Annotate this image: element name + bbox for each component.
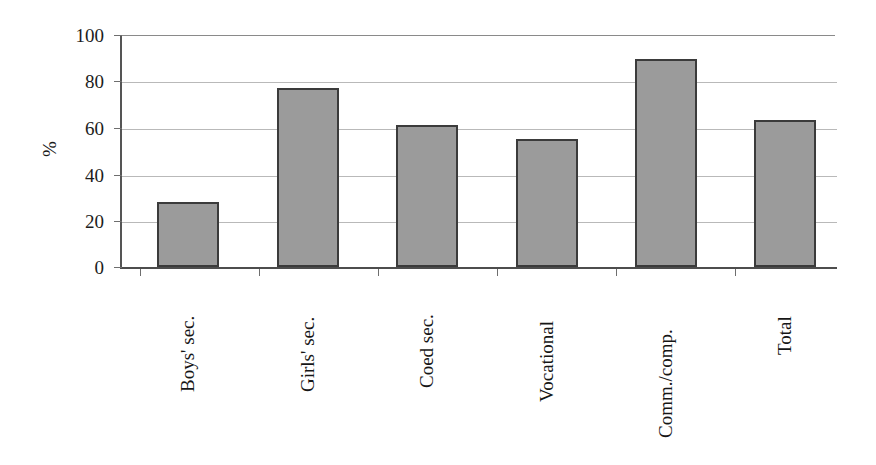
gridline-40 xyxy=(122,176,837,177)
x-label-vocational: Vocational xyxy=(537,321,557,402)
bar-vocational xyxy=(516,139,578,267)
y-tick-mark-40 xyxy=(114,175,122,176)
y-tick-label-20: 20 xyxy=(56,212,104,231)
gridline-80 xyxy=(122,82,837,83)
bar-coed-sec xyxy=(396,125,458,267)
y-tick-label-80: 80 xyxy=(56,72,104,91)
x-label-girls-sec: Girls' sec. xyxy=(298,317,318,392)
bar-chart: % 100 80 60 40 20 0 Boys' sec. Girls' se… xyxy=(0,0,876,465)
y-tick-mark-80 xyxy=(114,81,122,82)
y-tick-label-100: 100 xyxy=(56,26,104,45)
y-tick-mark-20 xyxy=(114,221,122,222)
gridline-20 xyxy=(122,222,837,223)
x-axis-line xyxy=(120,267,837,269)
bar-total xyxy=(754,120,816,267)
x-tick-mark-4 xyxy=(497,269,498,276)
x-label-coed-sec: Coed sec. xyxy=(417,314,437,388)
bar-girls-sec xyxy=(277,88,339,267)
x-label-boys-sec: Boys' sec. xyxy=(178,316,198,392)
x-tick-mark-6 xyxy=(735,269,736,276)
x-tick-mark-5 xyxy=(616,269,617,276)
x-label-total: Total xyxy=(775,316,795,355)
y-tick-label-60: 60 xyxy=(56,119,104,138)
y-tick-label-40: 40 xyxy=(56,166,104,185)
x-tick-mark-3 xyxy=(378,269,379,276)
y-tick-mark-60 xyxy=(114,128,122,129)
gridline-60 xyxy=(122,129,837,130)
x-tick-mark-1 xyxy=(140,269,141,276)
y-tick-mark-100 xyxy=(114,35,122,36)
y-tick-mark-0 xyxy=(114,267,122,268)
y-tick-label-0: 0 xyxy=(56,258,104,277)
plot-area xyxy=(120,35,835,268)
x-tick-mark-2 xyxy=(259,269,260,276)
x-label-comm-comp: Comm./comp. xyxy=(656,329,676,438)
bar-boys-sec xyxy=(157,202,219,267)
bar-comm-comp xyxy=(635,59,697,267)
